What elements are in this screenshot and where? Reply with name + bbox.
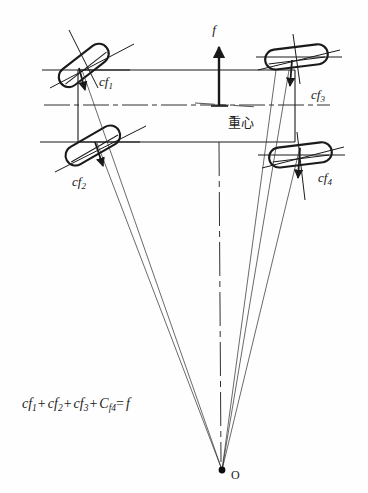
convergence-point-O	[219, 467, 226, 474]
wheel-front-left-steer-axis	[50, 44, 134, 88]
eq-op3: +	[89, 396, 97, 411]
origin-dot	[219, 467, 226, 474]
eq-term2-sub: 2	[58, 403, 63, 413]
label-cf3: cf3	[311, 87, 325, 104]
label-center-of-gravity: 重心	[228, 115, 254, 130]
label-cf4: cf4	[318, 170, 332, 187]
eq-op2: +	[64, 396, 72, 411]
resultant-force-f	[211, 47, 228, 106]
label-cf1-subscript: 1	[108, 81, 113, 91]
centerline-vertical	[219, 142, 221, 462]
eq-op1: +	[38, 396, 46, 411]
label-cf2: cf2	[72, 174, 86, 191]
figure-canvas: f cf1 cf2 cf3 cf4 重心 O cf1+cf2+cf3+Cf4=f	[0, 0, 368, 493]
force-vectors	[79, 60, 300, 178]
label-force-f: f	[212, 22, 218, 37]
eq-term3-sub: 3	[83, 403, 89, 413]
label-origin-O: O	[231, 468, 240, 482]
label-cf1: cf1	[99, 74, 113, 91]
force-arrow-cf3	[290, 60, 292, 86]
radius-line-rear-left	[97, 143, 222, 470]
radius-line-front-right-inner	[222, 70, 276, 470]
force-arrow-cf4	[298, 148, 300, 178]
wheel-front-right-normal-axis	[293, 34, 300, 84]
force-balance-equation: cf1+cf2+cf3+Cf4=f	[22, 396, 132, 413]
label-cf3-subscript: 3	[319, 94, 325, 104]
eq-op4: =	[116, 396, 124, 411]
vertical-centerline	[219, 142, 221, 462]
label-cf2-subscript: 2	[81, 181, 86, 191]
steering-force-diagram: f cf1 cf2 cf3 cf4 重心 O cf1+cf2+cf3+Cf4=f	[0, 0, 368, 493]
longitudinal-centerline	[44, 103, 330, 107]
radius-line-front-right	[222, 70, 289, 470]
label-cf4-subscript: 4	[327, 177, 332, 187]
wheel-front-left-axis-lines	[42, 30, 134, 88]
radius-line-rear-right	[222, 147, 300, 470]
eq-term1-sub: 1	[32, 403, 37, 413]
eq-term5: f	[126, 396, 132, 411]
wheel-front-right-axis-lines	[256, 34, 342, 84]
